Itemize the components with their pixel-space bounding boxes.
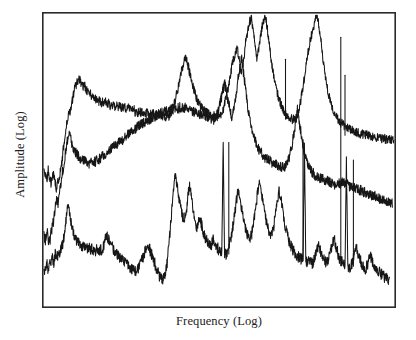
plot-canvas: [42, 12, 396, 308]
x-axis-label: Frequency (Log): [42, 314, 396, 329]
spectrum-figure: Amplitude (Log) Frequency (Log): [0, 0, 416, 340]
plot-area: [42, 12, 396, 308]
x-axis-label-text: Frequency (Log): [176, 314, 262, 328]
y-axis-label: Amplitude (Log): [0, 0, 40, 308]
y-axis-label-text: Amplitude (Log): [13, 111, 28, 198]
